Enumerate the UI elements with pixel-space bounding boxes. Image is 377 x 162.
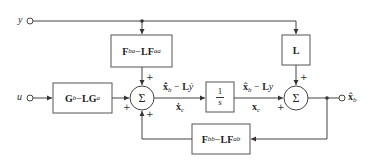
y-input-port: [27, 18, 33, 24]
y-input-label: y: [18, 15, 22, 25]
sum2-symbol: Σ: [284, 86, 308, 110]
sum1-sign-top: +: [146, 73, 154, 82]
integrator-output-label-top: x̂b − Ly: [243, 82, 273, 94]
output-label: x̂b: [348, 92, 357, 104]
sum1-symbol: Σ: [130, 86, 154, 110]
fbb-block: Fbb − LFab: [192, 124, 250, 154]
sum2-sign-top: +: [300, 73, 308, 82]
l-block: L: [282, 35, 310, 65]
fba-block: Fba − LFaa: [111, 35, 172, 67]
u-input-label: u: [17, 92, 22, 102]
sum1-output-label-bottom: ẋc: [176, 102, 184, 114]
integrator-output-label-bottom: xc: [252, 102, 260, 114]
y-branch-dot: [140, 19, 144, 23]
sum1-sign-left: +: [123, 103, 131, 112]
sum1-output-label-top: x̂̇b − Lẏ: [163, 82, 193, 94]
output-port: [339, 95, 345, 101]
integrator-block: 1s: [206, 82, 234, 112]
u-input-port: [27, 95, 33, 101]
sum2-sign-left: +: [277, 103, 285, 112]
gb-block: Gb − LGa: [53, 83, 112, 113]
sum1-sign-bottom: +: [146, 110, 154, 119]
